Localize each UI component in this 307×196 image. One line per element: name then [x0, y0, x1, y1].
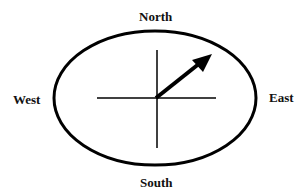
compass-diagram [0, 0, 307, 196]
arrow-shaft [156, 63, 200, 98]
